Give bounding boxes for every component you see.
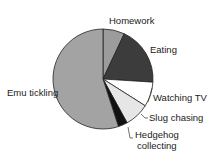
label-hedgehog-line1: Hedgehog: [135, 129, 179, 140]
label-eating: Eating: [150, 44, 177, 55]
leader-slug-chasing: [141, 114, 148, 118]
label-slug-chasing: Slug chasing: [149, 112, 203, 123]
label-homework: Homework: [109, 15, 155, 26]
label-watching-tv: Watching TV: [153, 92, 208, 103]
leader-hedgehog: [128, 127, 133, 138]
label-emu-tickling: Emu tickling: [7, 87, 58, 98]
label-hedgehog-line2: collecting: [137, 140, 177, 151]
pie-chart: Homework Eating Watching TV Slug chasing…: [0, 0, 213, 160]
pie-slices: [53, 29, 153, 129]
